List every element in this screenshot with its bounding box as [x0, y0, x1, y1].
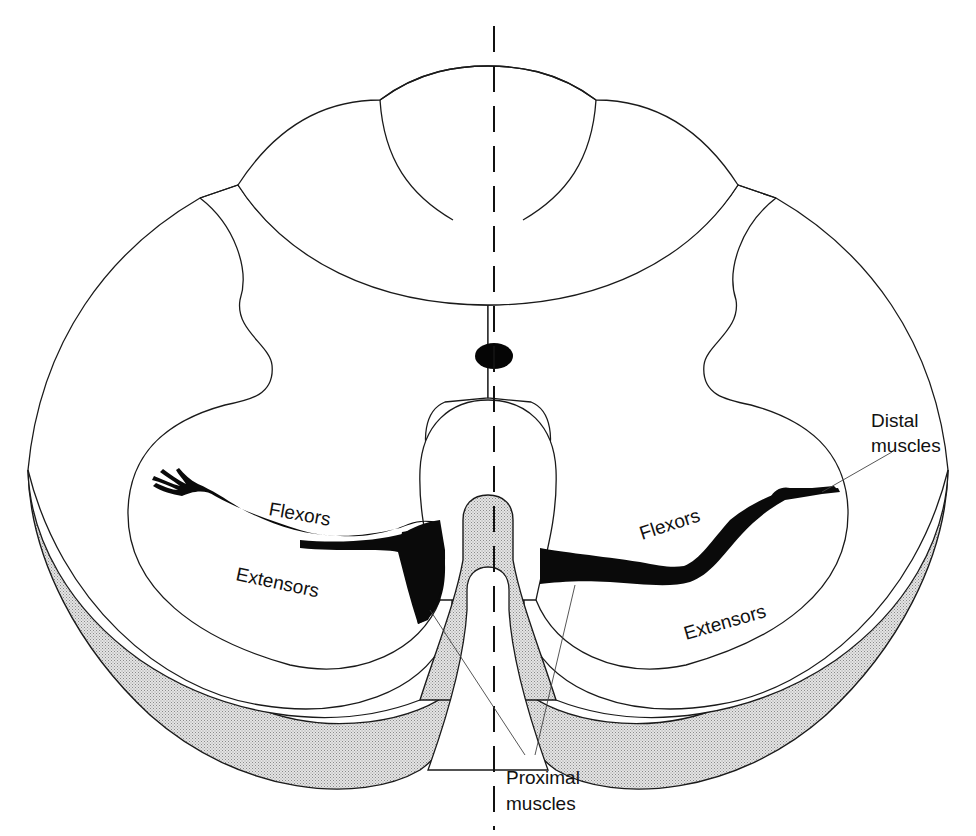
spinal-cord-diagram: Flexors Extensors Flexors Extensors Dist… — [0, 0, 976, 836]
label-proximal-line2: muscles — [506, 793, 576, 814]
label-proximal-line1: Proximal — [506, 767, 580, 788]
label-distal-line1: Distal — [871, 410, 919, 431]
label-distal-line2: muscles — [871, 435, 941, 456]
